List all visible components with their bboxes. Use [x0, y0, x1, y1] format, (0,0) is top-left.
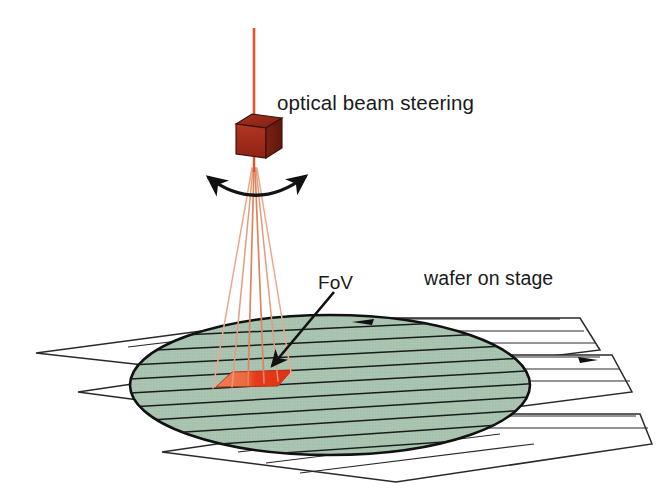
label-wafer-on-stage: wafer on stage [424, 267, 553, 290]
label-optical-beam-steering: optical beam steering [277, 91, 474, 115]
cube-front-face [236, 124, 266, 158]
beam-steering-cube [236, 114, 282, 158]
wafer-outline [130, 315, 530, 455]
diagram-canvas: optical beam steering wafer on stage FoV [0, 0, 659, 502]
beam-steering-scene [0, 0, 659, 502]
label-fov: FoV [318, 272, 353, 294]
